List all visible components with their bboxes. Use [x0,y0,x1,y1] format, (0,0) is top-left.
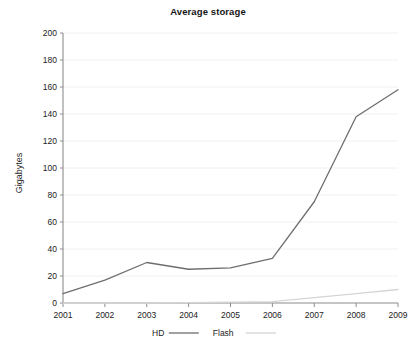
y-tick-label: 100 [43,163,57,173]
series-line-hd [63,90,398,294]
x-axis-ticks: 200120022003200420052006200720082009 [54,303,408,320]
chart-legend: HDFlash [152,328,276,338]
y-tick-label: 80 [48,190,58,200]
x-tick-label: 2008 [347,310,366,320]
x-tick-label: 2006 [263,310,282,320]
x-tick-label: 2007 [305,310,324,320]
y-axis-ticks: 020406080100120140160180200 [43,28,63,308]
chart-plot-area: 020406080100120140160180200 200120022003… [0,0,416,357]
data-series [63,90,398,303]
x-tick-label: 2001 [54,310,73,320]
x-tick-label: 2004 [179,310,198,320]
y-tick-label: 200 [43,28,57,38]
gridlines [63,33,398,276]
chart-container: Average storage Gigabytes 02040608010012… [0,0,416,357]
series-line-flash [63,290,398,304]
y-tick-label: 160 [43,82,57,92]
legend-label-hd: HD [152,328,164,338]
y-tick-label: 60 [48,217,58,227]
x-tick-label: 2009 [389,310,408,320]
y-tick-label: 40 [48,244,58,254]
y-tick-label: 140 [43,109,57,119]
x-tick-label: 2003 [137,310,156,320]
x-tick-label: 2002 [95,310,114,320]
y-tick-label: 180 [43,55,57,65]
x-tick-label: 2005 [221,310,240,320]
y-tick-label: 0 [52,298,57,308]
legend-label-flash: Flash [213,328,234,338]
y-tick-label: 120 [43,136,57,146]
y-tick-label: 20 [48,271,58,281]
